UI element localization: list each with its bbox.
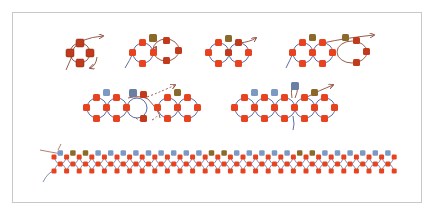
figure-4 — [286, 34, 374, 68]
figure-1 — [66, 36, 103, 70]
figure-6 — [231, 82, 338, 130]
bead-diagram — [0, 0, 438, 215]
figure-3 — [205, 35, 256, 67]
figure-2 — [125, 34, 182, 68]
figure-7-strip — [40, 144, 397, 182]
figure-5 — [83, 85, 201, 122]
